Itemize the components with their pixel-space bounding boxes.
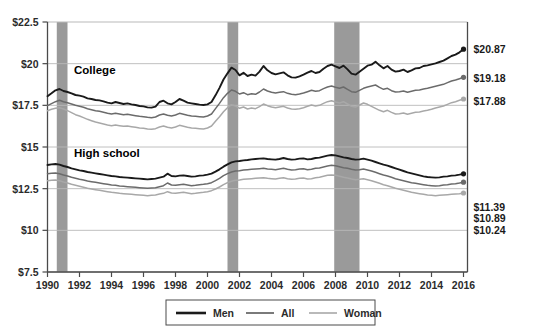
y-tick-label-1: $20 bbox=[21, 58, 39, 70]
x-tick-label-0: 1990 bbox=[36, 279, 60, 291]
x-tick-label-5: 2000 bbox=[196, 279, 220, 291]
x-tick-label-2: 1994 bbox=[100, 279, 124, 291]
legend-label-men[interactable]: Men bbox=[213, 307, 234, 319]
end-marker-high-school-men bbox=[461, 171, 466, 176]
x-tick-label-13: 2016 bbox=[452, 279, 476, 291]
x-tick-label-4: 1998 bbox=[164, 279, 188, 291]
wage-line-chart: $22.5$20$17.5$15$12.5$10$7.5 19901992199… bbox=[0, 0, 538, 333]
chart-legend[interactable]: MenAllWoman bbox=[166, 300, 382, 325]
y-tick-label-3: $15 bbox=[21, 141, 39, 153]
y-tick-label-4: $12.5 bbox=[12, 183, 38, 195]
group-label-highschool: High school bbox=[74, 147, 140, 159]
x-tick-label-12: 2014 bbox=[420, 279, 444, 291]
end-marker-high-school-woman bbox=[461, 190, 466, 195]
y-tick-label-5: $10 bbox=[21, 224, 39, 236]
chart-container: $22.5$20$17.5$15$12.5$10$7.5 19901992199… bbox=[0, 0, 538, 333]
y-tick-label-0: $22.5 bbox=[12, 16, 38, 28]
y-tick-label-6: $7.5 bbox=[18, 266, 39, 278]
legend-label-woman[interactable]: Woman bbox=[344, 307, 382, 319]
legend-label-all[interactable]: All bbox=[281, 307, 295, 319]
end-label-college-woman: $17.88 bbox=[474, 95, 506, 107]
end-label-highschool-all: $10.89 bbox=[474, 212, 506, 224]
x-tick-label-3: 1996 bbox=[132, 279, 156, 291]
x-tick-label-9: 2008 bbox=[324, 279, 348, 291]
y-tick-label-2: $17.5 bbox=[12, 99, 38, 111]
end-marker-college-men bbox=[461, 47, 466, 52]
end-marker-college-all bbox=[461, 75, 466, 80]
x-tick-label-11: 2012 bbox=[388, 279, 412, 291]
end-marker-college-woman bbox=[461, 96, 466, 101]
group-label-college: College bbox=[74, 64, 116, 76]
end-marker-high-school-all bbox=[461, 180, 466, 185]
end-label-college-men: $20.87 bbox=[474, 43, 506, 55]
x-tick-label-6: 2002 bbox=[228, 279, 252, 291]
x-tick-label-1: 1992 bbox=[68, 279, 92, 291]
end-label-highschool-woman: $10.24 bbox=[474, 224, 506, 236]
x-tick-label-10: 2010 bbox=[356, 279, 380, 291]
x-tick-label-8: 2006 bbox=[292, 279, 316, 291]
end-label-college-all: $19.18 bbox=[474, 72, 506, 84]
x-tick-label-7: 2004 bbox=[260, 279, 284, 291]
